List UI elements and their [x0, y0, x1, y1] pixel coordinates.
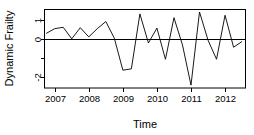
x-axis-ticks: [56, 88, 226, 92]
chart-figure: 10-2 200720082009201020112012 Dynamic Fr…: [0, 0, 254, 135]
x-tick-label: 2012: [215, 93, 236, 104]
x-axis-tick-labels: 200720082009201020112012: [45, 93, 236, 104]
series-line-dynamic-frailty: [46, 12, 242, 85]
x-tick-label: 2011: [181, 93, 201, 104]
y-tick-label: 1: [32, 18, 43, 23]
plot-border: [45, 10, 246, 89]
x-tick-label: 2010: [147, 93, 168, 104]
y-tick-label: -2: [32, 73, 43, 81]
x-tick-label: 2008: [79, 93, 100, 104]
y-axis-ticks: [41, 21, 45, 78]
y-tick-label: 0: [32, 37, 43, 42]
time-series-plot: 10-2 200720082009201020112012 Dynamic Fr…: [0, 0, 254, 135]
y-axis-title: Dynamic Frailty: [3, 10, 15, 86]
x-axis-title: Time: [133, 118, 157, 130]
y-axis-tick-labels: 10-2: [32, 18, 43, 82]
x-tick-label: 2009: [113, 93, 134, 104]
x-tick-label: 2007: [45, 93, 66, 104]
